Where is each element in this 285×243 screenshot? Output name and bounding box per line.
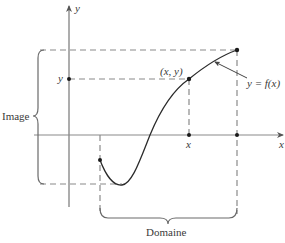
curve-label: y = f(x) [246,77,280,90]
image-label: Image [2,110,30,122]
x-tick-label: x [185,138,191,150]
y-axis-label: y [74,2,80,14]
function-diagram: y x y x (x, y) y = f(x) Image Domaine [0,0,285,243]
x-end-dot [235,133,239,137]
axes [34,6,283,207]
point-x-y [187,77,191,81]
curve-start-point [98,158,102,162]
y-tick-dot [67,77,71,81]
curve-end-point [235,48,239,52]
y-tick-label: y [57,72,63,84]
domain-label: Domaine [146,226,186,238]
domain-brace [100,208,237,224]
image-brace [33,50,44,184]
curve-label-pointer [215,62,247,78]
x-axis-label: x [278,138,284,150]
point-label: (x, y) [160,65,183,78]
x-tick-dot [187,133,191,137]
